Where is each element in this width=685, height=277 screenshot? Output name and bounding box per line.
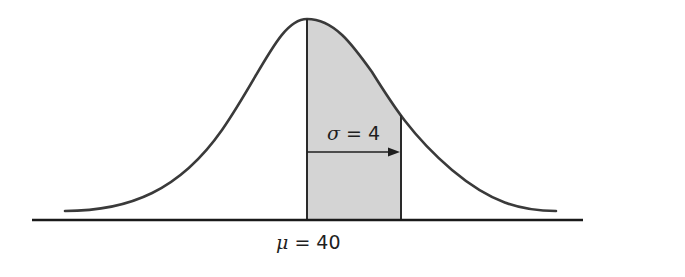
mu-symbol: μ <box>276 231 288 253</box>
sigma-label: σ = 4 <box>327 122 380 144</box>
sigma-value: = 4 <box>340 122 380 144</box>
mu-value: = 40 <box>288 231 340 253</box>
sigma-symbol: σ <box>327 122 340 144</box>
mu-label: μ = 40 <box>276 231 341 253</box>
